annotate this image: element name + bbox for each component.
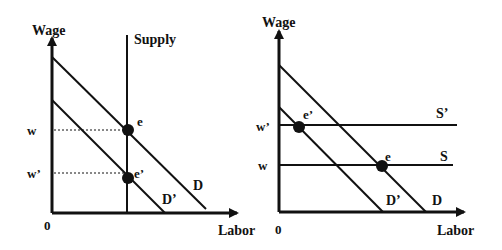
- right-demand-label: D: [432, 193, 442, 208]
- left-x-axis-label: Labor: [218, 223, 255, 238]
- right-wage-label: w: [258, 158, 268, 173]
- left-supply-label: Supply: [134, 32, 176, 47]
- right-supply-label: S: [440, 149, 448, 164]
- right-equilibrium-prime-point: [293, 121, 305, 133]
- right-demand-line: [279, 65, 426, 212]
- right-panel: Wage w’ w e’ e S’ S D’ D 0 Labor: [256, 15, 474, 238]
- left-equilibrium-point: [122, 124, 134, 136]
- left-wage-prime-label: w’: [27, 166, 41, 181]
- left-wage-label: w: [27, 123, 37, 138]
- left-equilibrium-prime-point: [122, 172, 134, 184]
- right-eq-prime-label: e’: [303, 107, 313, 122]
- left-demand-prime-line: [52, 100, 165, 213]
- left-demand-prime-label: D’: [162, 192, 177, 207]
- right-y-axis-label: Wage: [262, 15, 295, 30]
- labor-market-diagrams: Wage Supply w w’ e e’ D D’ 0 Labor Wage …: [0, 0, 502, 250]
- left-y-axis-label: Wage: [32, 23, 65, 38]
- right-eq-label: e: [385, 149, 391, 164]
- left-eq-prime-label: e’: [134, 166, 144, 181]
- right-demand-prime-line: [279, 107, 383, 212]
- right-wage-prime-label: w’: [256, 119, 270, 134]
- right-demand-prime-label: D’: [386, 193, 401, 208]
- left-panel: Wage Supply w w’ e e’ D D’ 0 Labor: [27, 23, 255, 238]
- right-supply-prime-label: S’: [436, 106, 448, 121]
- left-origin-label: 0: [44, 218, 51, 233]
- left-demand-label: D: [193, 178, 203, 193]
- right-origin-label: 0: [275, 222, 282, 237]
- left-eq-label: e: [137, 114, 143, 129]
- right-x-axis-label: Labor: [437, 223, 474, 238]
